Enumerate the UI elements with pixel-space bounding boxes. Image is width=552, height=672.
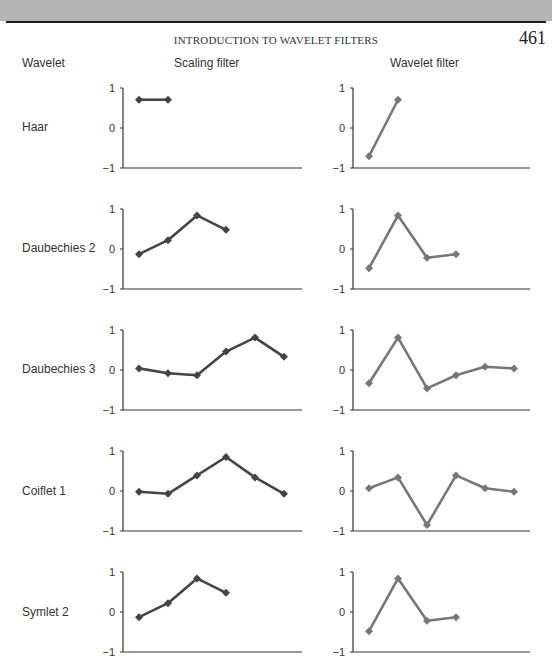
svg-text:1: 1 [109, 82, 115, 94]
svg-text:0: 0 [339, 485, 345, 497]
data-point-marker [135, 96, 143, 104]
line-chart: 10−1 [102, 445, 302, 537]
svg-text:1: 1 [109, 566, 115, 578]
data-point-marker [164, 369, 172, 377]
line-chart: 10−1 [332, 445, 530, 537]
data-point-marker [452, 613, 460, 621]
data-point-marker [135, 613, 143, 621]
data-point-marker [481, 484, 489, 492]
data-point-marker [510, 364, 518, 372]
line-chart: 10−1 [102, 566, 302, 658]
data-point-marker [365, 484, 373, 492]
data-point-marker [135, 250, 143, 258]
svg-text:0: 0 [109, 485, 115, 497]
svg-text:−1: −1 [102, 404, 115, 416]
data-point-marker [452, 250, 460, 258]
svg-text:1: 1 [339, 566, 345, 578]
svg-text:1: 1 [339, 203, 345, 215]
line-chart: 10−1 [102, 203, 302, 295]
svg-text:−1: −1 [332, 525, 345, 537]
svg-text:1: 1 [339, 445, 345, 457]
line-chart: 10−1 [332, 324, 530, 416]
line-chart: 10−1 [102, 82, 302, 174]
svg-text:1: 1 [339, 82, 345, 94]
line-chart: 10−1 [332, 203, 530, 295]
svg-text:−1: −1 [332, 646, 345, 658]
data-point-marker [510, 488, 518, 496]
svg-text:0: 0 [109, 243, 115, 255]
svg-text:−1: −1 [102, 283, 115, 295]
svg-text:0: 0 [339, 243, 345, 255]
svg-text:0: 0 [339, 364, 345, 376]
line-chart: 10−1 [332, 566, 530, 658]
svg-text:−1: −1 [332, 404, 345, 416]
data-point-marker [481, 363, 489, 371]
svg-text:1: 1 [109, 445, 115, 457]
svg-text:0: 0 [109, 122, 115, 134]
svg-text:−1: −1 [332, 162, 345, 174]
data-point-marker [452, 371, 460, 379]
svg-text:−1: −1 [102, 525, 115, 537]
svg-text:−1: −1 [332, 283, 345, 295]
data-point-marker [164, 96, 172, 104]
svg-text:1: 1 [339, 324, 345, 336]
line-chart: 10−1 [332, 82, 530, 174]
svg-text:−1: −1 [102, 646, 115, 658]
data-point-marker [135, 364, 143, 372]
svg-text:0: 0 [109, 606, 115, 618]
svg-text:0: 0 [109, 364, 115, 376]
svg-text:−1: −1 [102, 162, 115, 174]
filter-charts: 10−110−110−110−110−110−110−110−110−110−1 [0, 0, 552, 672]
data-point-marker [135, 488, 143, 496]
svg-text:1: 1 [109, 324, 115, 336]
svg-text:0: 0 [339, 122, 345, 134]
svg-text:0: 0 [339, 606, 345, 618]
svg-text:1: 1 [109, 203, 115, 215]
line-chart: 10−1 [102, 324, 302, 416]
